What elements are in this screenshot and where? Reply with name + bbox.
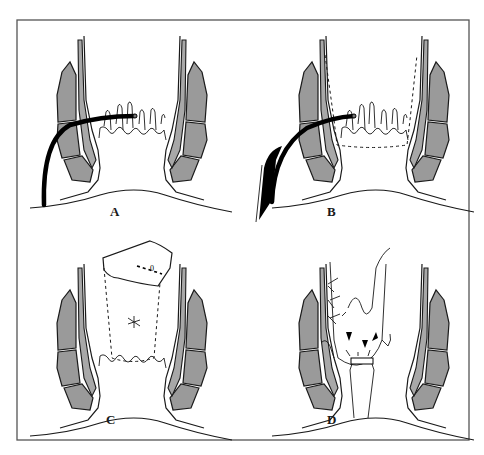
surgical-diagram: A B 0 C D bbox=[0, 0, 484, 455]
panel-label-b: B bbox=[327, 204, 336, 219]
panel-label-c: C bbox=[106, 412, 115, 427]
panel-c: 0 C bbox=[30, 241, 232, 440]
panel-a: A bbox=[30, 36, 232, 219]
panel-label-d: D bbox=[327, 412, 336, 427]
svg-text:0: 0 bbox=[150, 264, 154, 273]
panel-label-a: A bbox=[110, 204, 120, 219]
panel-b: B bbox=[256, 36, 474, 222]
panel-d: D bbox=[272, 248, 474, 440]
